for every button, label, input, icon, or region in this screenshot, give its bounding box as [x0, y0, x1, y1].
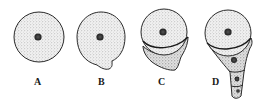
- panel-a-label: A: [34, 77, 41, 87]
- panel-d-label: D: [212, 77, 219, 87]
- cell-division-figure: A B C D: [0, 0, 264, 105]
- nucleus-icon: [231, 57, 237, 63]
- panel-b-label: B: [98, 77, 105, 87]
- nucleus-icon: [224, 28, 231, 35]
- nucleus-icon: [96, 33, 103, 40]
- nucleus-icon: [159, 28, 166, 35]
- nucleus-icon: [236, 89, 240, 93]
- figure-canvas: [0, 0, 264, 105]
- nucleus-icon: [235, 77, 240, 82]
- panel-c-label: C: [158, 77, 165, 87]
- nucleus-icon: [34, 33, 41, 40]
- panel-c-cell: [141, 9, 188, 70]
- panel-a-cell: [14, 12, 64, 62]
- panel-b-cell: [77, 12, 125, 69]
